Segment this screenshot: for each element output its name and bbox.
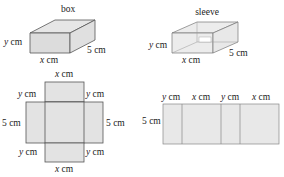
box-3d: box y cm x cm 5 cm	[3, 4, 106, 65]
box-net-upper-left-label: y cm	[17, 89, 37, 99]
sleeve-net-segment-label: x cm	[251, 92, 271, 102]
box-depth-label: 5 cm	[87, 45, 106, 55]
box-net-lower-left-label: y cm	[18, 147, 38, 157]
box-net-base	[45, 102, 84, 143]
box-title: box	[61, 4, 76, 14]
box-net-lower-right-label: y cm	[85, 147, 105, 157]
box-front-face	[30, 33, 70, 53]
box-net-top-flap	[45, 82, 84, 102]
sleeve-3d: sleeve y cm x cm 5 cm	[148, 7, 248, 65]
sleeve-net-segment-label: x cm	[191, 92, 211, 102]
box-net: x cm y cm y cm 5 cm 5 cm y cm y cm x cm	[2, 69, 125, 174]
box-net-bottom-label: x cm	[54, 164, 74, 174]
sleeve-title: sleeve	[195, 7, 219, 17]
sleeve-front-face	[172, 33, 213, 53]
diagram-canvas: box y cm x cm 5 cm sleeve y cm x cm 5 cm…	[0, 0, 284, 177]
box-net-left-label: 5 cm	[2, 118, 21, 128]
box-width-label: x cm	[39, 55, 59, 65]
box-net-right-label: 5 cm	[106, 118, 125, 128]
sleeve-width-label: x cm	[181, 55, 201, 65]
sleeve-opening	[199, 37, 211, 42]
sleeve-net: 5 cm y cm x cm y cm x cm	[142, 92, 279, 144]
sleeve-net-segment-label: y cm	[161, 92, 181, 102]
box-height-label: y cm	[3, 37, 23, 47]
box-net-upper-right-label: y cm	[85, 89, 105, 99]
sleeve-height-label: y cm	[148, 40, 168, 50]
sleeve-net-side-label: 5 cm	[142, 116, 161, 126]
box-net-bottom-flap	[45, 143, 84, 162]
sleeve-depth-label: 5 cm	[229, 48, 248, 58]
box-net-top-label: x cm	[54, 69, 74, 79]
sleeve-net-segment-label: y cm	[220, 92, 240, 102]
